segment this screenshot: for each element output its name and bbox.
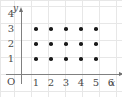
data-point xyxy=(34,57,38,61)
y-axis-tick-label: 2 xyxy=(6,39,16,49)
data-point xyxy=(34,27,38,31)
x-axis-tick-label: 1 xyxy=(31,78,41,88)
x-axis-arrow-icon xyxy=(119,72,123,76)
data-point xyxy=(94,57,98,61)
data-point xyxy=(79,27,83,31)
y-axis-tick-label: 4 xyxy=(6,9,16,19)
x-axis-tick-label: 3 xyxy=(61,78,71,88)
data-point xyxy=(94,27,98,31)
y-axis-tick-label: 3 xyxy=(6,24,16,34)
data-point xyxy=(64,42,68,46)
data-point xyxy=(34,42,38,46)
y-axis-tick-label: 1 xyxy=(6,54,16,64)
origin-label: O xyxy=(6,77,16,87)
y-axis-arrow-icon xyxy=(19,7,23,12)
data-point xyxy=(64,27,68,31)
data-point xyxy=(49,57,53,61)
scatter-plot-figure: y x O 1234561234 xyxy=(0,0,122,97)
x-axis-tick-label: 4 xyxy=(76,78,86,88)
data-point xyxy=(79,57,83,61)
x-axis-line xyxy=(6,74,119,75)
x-axis-tick-label: 5 xyxy=(91,78,101,88)
data-point xyxy=(94,42,98,46)
data-point xyxy=(79,42,83,46)
data-point xyxy=(49,27,53,31)
data-point xyxy=(64,57,68,61)
x-axis-tick-label: 2 xyxy=(46,78,56,88)
x-axis-tick-label: 6 xyxy=(106,78,116,88)
data-point xyxy=(49,42,53,46)
